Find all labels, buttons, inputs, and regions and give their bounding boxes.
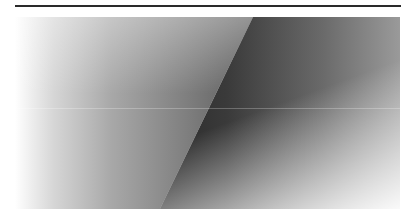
top-rule-line [15, 5, 401, 7]
gradient-panel [15, 17, 400, 209]
horizontal-streak [15, 108, 400, 109]
